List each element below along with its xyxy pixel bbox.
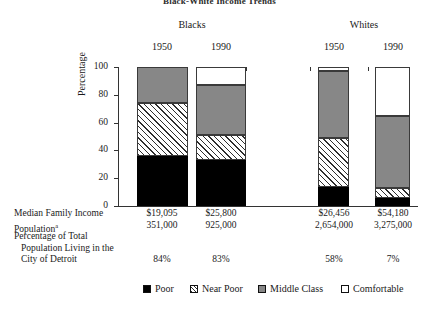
year-header-whites-1990: 1990 [363,41,423,52]
row-label-median-family-income: Median Family Income [14,208,103,220]
bar-blacks-1990[interactable] [196,67,246,206]
table-row-pct-line-2: Population Living in the [0,243,439,255]
cell-pct-whites-1950: 58% [304,254,364,266]
bar-segment-comfortable [375,67,410,116]
bar-segment-poor [318,187,349,206]
group-header-whites: Whites [324,19,404,30]
legend-item-comfortable[interactable]: Comfortable [341,283,404,294]
bar-segment-near-poor [196,135,246,160]
bar-segment-middle-class [196,85,246,135]
gray-square-icon [258,285,266,293]
bar-segment-poor [375,198,410,206]
figure-black-white-income-trends: Black-White Income Trends Blacks Whites … [0,0,439,315]
legend-label-comfortable: Comfortable [353,283,404,294]
bar-blacks-1950[interactable] [137,67,188,206]
plot-area: 0 20 40 60 80 100 [118,67,418,206]
bar-segment-near-poor [137,103,188,156]
cell-income-whites-1990: $54,180 [363,208,423,220]
legend-item-middle-class[interactable]: Middle Class [258,283,323,294]
bar-segment-middle-class [137,67,188,103]
y-tick-60: 60 [114,123,118,124]
cell-pct-blacks-1990: 83% [191,254,251,266]
hatched-square-icon [190,285,198,293]
y-tick-label-60: 60 [99,117,109,128]
y-tick-100: 100 [114,67,118,68]
figure-title: Black-White Income Trends [0,0,439,6]
bar-segment-comfortable [196,67,246,85]
white-square-icon [341,285,349,293]
cell-population-blacks-1950: 351,000 [132,220,192,232]
bar-segment-near-poor [375,188,410,198]
y-tick-label-80: 80 [99,89,109,100]
table-row-pct-line-1: Percentage of Total [0,231,439,243]
legend-item-poor[interactable]: Poor [143,283,174,294]
y-tick-label-20: 20 [99,172,109,183]
x-tick-4 [368,67,369,71]
row-label-pct-line-2: Population Living in the [21,243,114,255]
y-tick-label-40: 40 [99,144,109,155]
bar-whites-1950[interactable] [318,67,349,206]
x-tick-3 [310,67,311,71]
bar-segment-poor [196,160,246,206]
table-row-median-family-income: Median Family Income $19,095 $25,800 $26… [0,208,439,220]
cell-population-blacks-1990: 925,000 [191,220,251,232]
legend-label-poor: Poor [155,283,174,294]
cell-income-blacks-1990: $25,800 [191,208,251,220]
row-label-pct-line-3: City of Detroit [21,254,77,266]
y-axis-label: Percentage [76,52,87,96]
legend-item-near-poor[interactable]: Near Poor [190,283,243,294]
y-tick-40: 40 [114,150,118,151]
x-axis-line [118,206,418,207]
legend-label-middle-class: Middle Class [270,283,323,294]
black-square-icon [143,285,151,293]
year-header-whites-1950: 1950 [304,41,364,52]
cell-population-whites-1990: 3,275,000 [363,220,423,232]
footnote-marker-a: a [55,222,58,229]
y-tick-80: 80 [114,95,118,96]
x-tick-2 [246,67,247,71]
legend-label-near-poor: Near Poor [202,283,243,294]
y-axis-line [118,67,119,206]
bar-whites-1990[interactable] [375,67,410,206]
y-tick-20: 20 [114,178,118,179]
data-table: Median Family Income $19,095 $25,800 $26… [0,208,439,266]
bar-segment-poor [137,156,188,206]
bar-segment-middle-class [318,71,349,138]
table-row-pct-line-3: City of Detroit 84% 83% 58% 7% [0,254,439,266]
table-row-population: Populationa 351,000 925,000 2,654,000 3,… [0,220,439,232]
y-tick-0: 0 [114,206,118,207]
y-tick-label-100: 100 [94,61,108,72]
year-header-blacks-1950: 1950 [132,41,192,52]
cell-income-blacks-1950: $19,095 [132,208,192,220]
bar-segment-middle-class [375,116,410,188]
bar-segment-comfortable [318,67,349,71]
group-header-blacks: Blacks [152,19,232,30]
cell-pct-blacks-1950: 84% [132,254,192,266]
bar-segment-near-poor [318,138,349,187]
chart-legend: Poor Near Poor Middle Class Comfortable [0,283,439,297]
year-header-blacks-1990: 1990 [191,41,251,52]
row-label-pct-line-1: Percentage of Total [14,231,88,243]
cell-pct-whites-1990: 7% [363,254,423,266]
cell-population-whites-1950: 2,654,000 [304,220,364,232]
cell-income-whites-1950: $26,456 [304,208,364,220]
